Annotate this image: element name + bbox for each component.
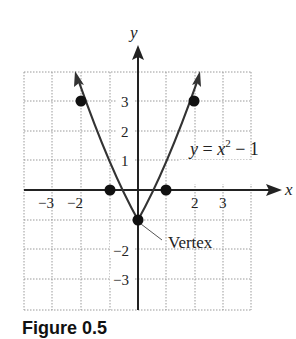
- y-tick-label: 3: [121, 94, 129, 110]
- equation-y: y: [188, 139, 198, 159]
- equation-label: y = x2 − 1: [188, 137, 259, 159]
- y-tick-label: 1: [121, 153, 129, 169]
- point-neg2-3: [76, 96, 87, 107]
- vertex-point: [133, 215, 144, 226]
- equation-equals: =: [198, 139, 217, 159]
- x-tick-label: −2: [67, 195, 83, 211]
- x-tick-label: 2: [191, 195, 199, 211]
- y-tick-label: −2: [113, 243, 129, 259]
- x-axis-label: x: [284, 180, 293, 199]
- y-axis-label: y: [128, 23, 138, 42]
- equation-rest: − 1: [231, 139, 259, 159]
- x-tick-label: 3: [219, 195, 227, 211]
- figure-caption: Figure 0.5: [22, 318, 107, 339]
- x-tick-label: −3: [38, 195, 54, 211]
- y-tick-label: 2: [121, 124, 129, 140]
- equation-x: x: [216, 139, 225, 159]
- point-neg1-0: [105, 185, 116, 196]
- vertex-label: Vertex: [168, 233, 213, 252]
- vertex-leader-line: [141, 224, 162, 240]
- point-2-3: [189, 96, 200, 107]
- point-1-0: [161, 185, 172, 196]
- y-tick-label: −3: [113, 272, 129, 288]
